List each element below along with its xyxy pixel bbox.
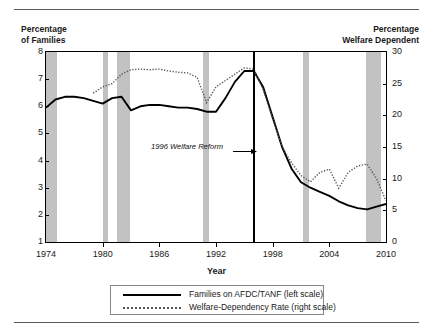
x-axis-tick-label: 2010: [366, 249, 406, 259]
series-line: [93, 68, 386, 201]
x-axis-tick-mark: [273, 243, 274, 247]
y-axis-tick-mark: [45, 79, 49, 80]
y-axis-tick-mark: [45, 161, 49, 162]
y2-axis-tick-label: 25: [392, 78, 412, 88]
y-axis-tick-mark: [45, 188, 49, 189]
x-axis-label: Year: [0, 266, 433, 276]
legend-item: Welfare-Dependency Rate (right scale): [111, 301, 325, 314]
y2-axis-tick-label: 0: [392, 236, 412, 246]
welfare-reform-line: [253, 52, 255, 242]
y2-axis-tick-label: 30: [392, 46, 412, 56]
x-axis-tick-label: 1980: [83, 249, 123, 259]
y2-axis-tick-mark: [383, 179, 387, 180]
x-axis-tick-mark: [103, 243, 104, 247]
x-axis-tick-label: 2004: [309, 249, 349, 259]
y-axis-tick-label: 4: [23, 155, 43, 165]
y-axis-tick-mark: [45, 106, 49, 107]
y-axis-tick-mark: [45, 133, 49, 134]
y-axis-tick-label: 7: [23, 73, 43, 83]
y-axis-tick-mark: [45, 215, 49, 216]
y2-axis-tick-mark: [383, 147, 387, 148]
right-axis-title: Percentage Welfare Dependent: [342, 24, 419, 45]
top-rule: [14, 9, 419, 10]
y2-axis-tick-label: 5: [392, 204, 412, 214]
y2-axis-tick-label: 10: [392, 173, 412, 183]
y2-axis-tick-mark: [383, 84, 387, 85]
chart-legend: Families on AFDC/TANF (left scale) Welfa…: [110, 285, 324, 315]
x-axis-tick-mark: [159, 243, 160, 247]
y2-axis-tick-mark: [383, 210, 387, 211]
legend-swatch-solid-icon: [123, 294, 181, 296]
y2-axis-tick-label: 15: [392, 141, 412, 151]
x-axis-tick-label: 1992: [196, 249, 236, 259]
x-axis-tick-label: 1986: [139, 249, 179, 259]
y-axis-tick-label: 5: [23, 127, 43, 137]
legend-label: Welfare-Dependency Rate (right scale): [189, 301, 336, 314]
x-axis-tick-mark: [329, 243, 330, 247]
bottom-rule: [14, 322, 419, 323]
series-line: [46, 71, 386, 209]
x-axis-tick-mark: [216, 243, 217, 247]
chart-figure: Percentage of Families Percentage Welfar…: [0, 0, 433, 333]
x-axis-tick-label: 1998: [253, 249, 293, 259]
y2-axis-tick-mark: [383, 115, 387, 116]
legend-item: Families on AFDC/TANF (left scale): [111, 288, 325, 301]
welfare-reform-annotation: 1996 Welfare Reform: [151, 142, 223, 151]
y2-axis-tick-label: 20: [392, 109, 412, 119]
left-axis-title: Percentage of Families: [21, 24, 67, 45]
y-axis-tick-label: 2: [23, 209, 43, 219]
legend-swatch-dotted-icon: [123, 307, 181, 309]
welfare-reform-arrow: [233, 148, 257, 155]
y-axis-tick-label: 3: [23, 182, 43, 192]
y-axis-tick-label: 6: [23, 100, 43, 110]
y-axis-tick-label: 8: [23, 46, 43, 56]
y-axis-tick-label: 1: [23, 236, 43, 246]
legend-label: Families on AFDC/TANF (left scale): [189, 288, 323, 301]
x-axis-tick-label: 1974: [26, 249, 66, 259]
